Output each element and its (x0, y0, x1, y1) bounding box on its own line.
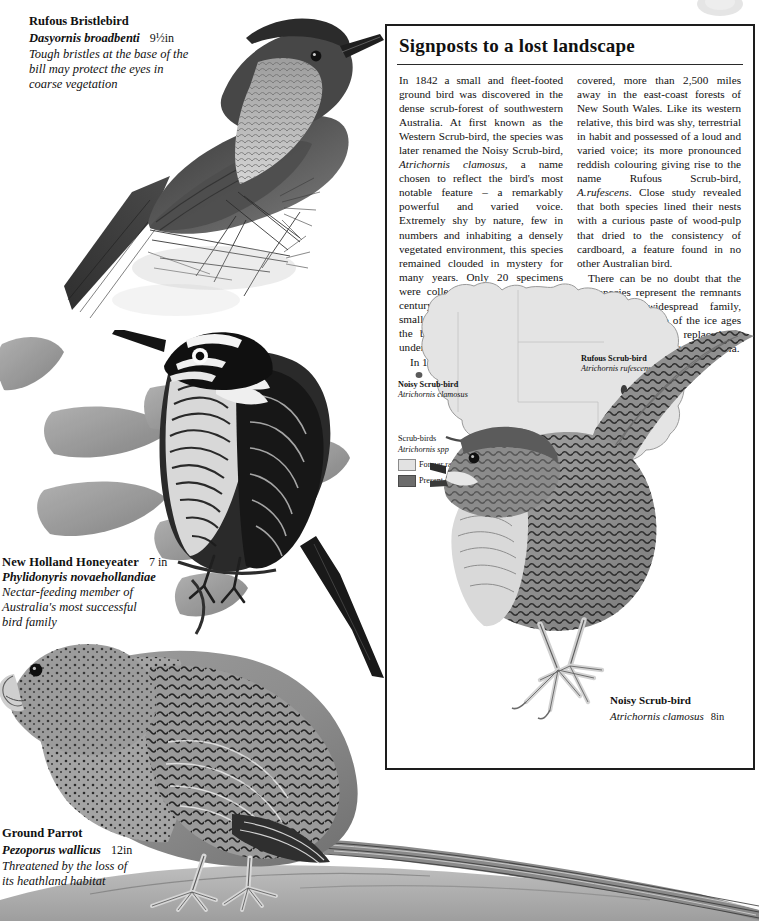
panel-title: Signposts to a lost landscape (399, 35, 753, 57)
legend-swatch-present-range (398, 475, 416, 487)
panel-title-rule (397, 64, 743, 65)
caption-common-name: Rufous Bristlebird (29, 14, 199, 28)
caption-common-name: Noisy Scrub-bird (610, 694, 724, 706)
caption-latin-name: Phylidonyris novaehollandiae (2, 570, 182, 584)
panel-paragraph: covered, more than 2,500 miles away in t… (577, 73, 741, 270)
legend-swatch-former-range (398, 459, 416, 471)
caption-common-name: Ground Parrot (2, 826, 182, 840)
present-range-marker-west (416, 372, 423, 378)
caption-note: Threatened by the loss of its heathland … (2, 859, 142, 889)
caption-size: 12in (111, 843, 132, 857)
caption-note: Tough bristles at the base of the bill m… (29, 47, 199, 92)
caption-latin-name: Atrichornis clamosus (610, 710, 704, 722)
caption-new-holland-honeyeater: New Holland Honeyeater7 in Phylidonyris … (2, 552, 182, 630)
caption-size: 8in (711, 711, 724, 722)
caption-latin-name: Pezoporus wallicus (2, 843, 101, 857)
caption-size: 9½in (150, 31, 174, 45)
caption-common-name: New Holland Honeyeater (2, 555, 139, 569)
caption-ground-parrot: Ground Parrot Pezoporus wallicus12in Thr… (2, 826, 182, 889)
caption-size: 7 in (149, 555, 167, 569)
corner-smudge (688, 0, 752, 26)
caption-note: Nectar-feeding member of Australia's mos… (2, 585, 152, 630)
caption-latin-name: Dasyornis broadbenti (29, 31, 140, 45)
page-canvas: Rufous Bristlebird Dasyornis broadbenti9… (0, 0, 759, 921)
caption-noisy-scrub-bird: Noisy Scrub-bird Atrichornis clamosus8in (610, 694, 724, 724)
caption-rufous-bristlebird: Rufous Bristlebird Dasyornis broadbenti9… (29, 14, 199, 92)
